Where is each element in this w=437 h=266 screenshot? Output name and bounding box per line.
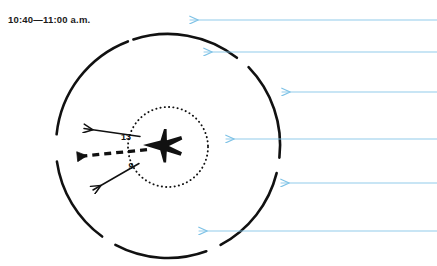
vector-arrow-resultant [78, 150, 147, 157]
arc-lower-left [57, 162, 102, 237]
arc-upper-left [57, 41, 128, 134]
figure-root: 10:40—11:00 a.m. [0, 0, 437, 266]
arc-upper-right [249, 67, 281, 158]
vector-label-13: 13 [121, 132, 131, 142]
arc-top [133, 34, 237, 58]
arc-bottom [115, 245, 206, 258]
wind-flow-arrows [190, 20, 437, 231]
diagram-canvas: 13 9 [0, 0, 437, 266]
vector-arrows: 13 9 [78, 129, 147, 191]
time-range-label: 10:40—11:00 a.m. [8, 14, 90, 25]
vector-arrow-13 [84, 129, 140, 137]
jet-aircraft-icon [143, 129, 182, 163]
arc-lower-right [221, 173, 277, 245]
vector-label-9: 9 [128, 161, 133, 171]
